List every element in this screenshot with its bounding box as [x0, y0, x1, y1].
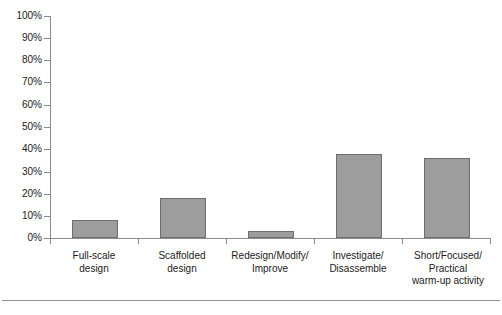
x-axis-category-label: Investigate/ Disassemble: [314, 250, 402, 275]
x-axis-tick: [138, 238, 139, 244]
x-axis-category-label-line: Full-scale: [50, 250, 138, 263]
x-axis-category-label-line: Improve: [224, 263, 316, 276]
x-axis-category-label-line: design: [138, 263, 226, 276]
x-axis-category-label-line: warm-up activity: [400, 275, 496, 288]
x-axis-category-label-line: Short/Focused/: [400, 250, 496, 263]
bar-short-focused-practical-warm-up-activity: [424, 158, 470, 238]
y-axis-tick-label: 50%: [0, 122, 42, 132]
y-axis-tick-label: 10%: [0, 211, 42, 221]
x-axis-line: [50, 238, 491, 239]
x-axis-category-label-line: design: [50, 263, 138, 276]
page-divider: [2, 300, 500, 301]
bar-full-scale-design: [72, 220, 118, 238]
y-axis-tick-label: 60%: [0, 100, 42, 110]
x-axis-category-label-line: Practical: [400, 263, 496, 276]
y-axis-tick: [44, 38, 51, 39]
y-axis-tick-label: 40%: [0, 144, 42, 154]
bar-investigate-disassemble: [336, 154, 382, 238]
x-axis-tick: [490, 238, 491, 244]
y-axis-tick: [44, 216, 51, 217]
x-axis-category-label-line: Investigate/: [314, 250, 402, 263]
y-axis-tick: [44, 127, 51, 128]
x-axis-category-label-line: Disassemble: [314, 263, 402, 276]
y-axis-tick: [44, 105, 51, 106]
y-axis-tick-label: 90%: [0, 33, 42, 43]
y-axis-tick: [44, 82, 51, 83]
x-axis-tick: [402, 238, 403, 244]
y-axis-tick: [44, 172, 51, 173]
x-axis-category-label-line: Scaffolded: [138, 250, 226, 263]
y-axis-tick: [44, 149, 51, 150]
x-axis-category-label: Scaffolded design: [138, 250, 226, 275]
y-axis-tick-label: 80%: [0, 55, 42, 65]
bar-chart: 100% 90% 80% 70% 60% 50% 40% 30% 20% 10%…: [0, 0, 502, 315]
y-axis-tick-label: 100%: [0, 11, 42, 21]
y-axis-tick: [44, 16, 51, 17]
x-axis-category-label: Short/Focused/ Practical warm-up activit…: [400, 250, 496, 288]
y-axis-tick-label: 30%: [0, 167, 42, 177]
x-axis-category-label-line: Redesign/Modify/: [224, 250, 316, 263]
bar-redesign-modify-improve: [248, 231, 294, 238]
y-axis-tick-label: 0%: [0, 233, 42, 243]
x-axis-category-label: Full-scale design: [50, 250, 138, 275]
y-axis-tick: [44, 194, 51, 195]
y-axis-tick-label: 70%: [0, 77, 42, 87]
bar-scaffolded-design: [160, 198, 206, 238]
x-axis-tick: [314, 238, 315, 244]
y-axis-tick-label: 20%: [0, 189, 42, 199]
x-axis-category-label: Redesign/Modify/ Improve: [224, 250, 316, 275]
y-axis-tick: [44, 60, 51, 61]
x-axis-tick: [226, 238, 227, 244]
x-axis-tick: [50, 238, 51, 244]
